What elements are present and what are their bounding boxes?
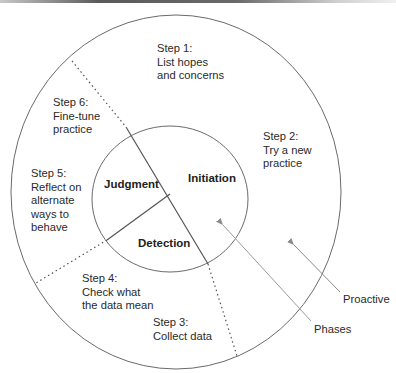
callout-label-proactive: Proactive [343, 293, 390, 305]
svg-text:ways to: ways to [30, 208, 69, 220]
step-5-label: Step 5: Reflect on alternate ways to beh… [30, 167, 81, 233]
svg-text:Step 1:: Step 1: [157, 42, 192, 54]
phase-label-detection: Detection [138, 237, 190, 249]
svg-text:and concerns: and concerns [157, 69, 225, 81]
svg-text:Step 6:: Step 6: [53, 96, 88, 108]
svg-text:Reflect on: Reflect on [31, 181, 81, 193]
inner-circle [92, 126, 248, 272]
cycle-diagram: Initiation Judgment Detection Step 1: Li… [0, 0, 396, 373]
divider-judgment-detection [107, 194, 170, 240]
svg-text:Step 5:: Step 5: [31, 167, 66, 179]
step-1-label: Step 1: List hopes and concerns [157, 42, 225, 81]
svg-text:Step 2:: Step 2: [263, 130, 298, 142]
svg-text:alternate: alternate [31, 194, 75, 206]
svg-text:List hopes: List hopes [157, 56, 208, 68]
svg-text:practice: practice [53, 123, 92, 135]
svg-text:Step 4:: Step 4: [82, 272, 117, 284]
phase-label-initiation: Initiation [188, 172, 236, 184]
step-6-label: Step 6: Fine-tune practice [53, 96, 100, 135]
svg-text:behave: behave [31, 221, 68, 233]
dotted-divider-step2-step3 [208, 264, 237, 356]
svg-text:practice: practice [263, 157, 302, 169]
step-3-label: Step 3: Collect data [153, 316, 213, 342]
svg-text:Fine-tune: Fine-tune [53, 110, 100, 122]
svg-text:Collect data: Collect data [153, 330, 213, 342]
callout-label-phases: Phases [314, 323, 352, 335]
svg-text:Try a new: Try a new [263, 144, 313, 156]
step-2-label: Step 2: Try a new practice [263, 130, 313, 169]
phase-label-judgment: Judgment [104, 178, 159, 190]
phases-arrow-icon [223, 225, 311, 321]
step-4-label: Step 4: Check what the data mean [82, 272, 154, 311]
svg-text:the data mean: the data mean [82, 299, 154, 311]
svg-text:Check what: Check what [82, 286, 141, 298]
svg-text:Step 3:: Step 3: [153, 316, 188, 328]
